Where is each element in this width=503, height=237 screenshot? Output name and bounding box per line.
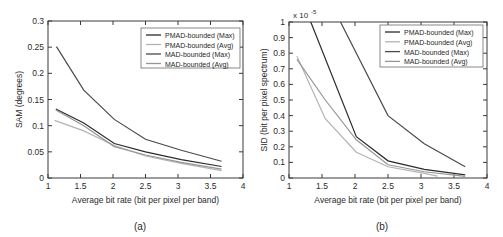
y-tick-label: 0.9	[273, 33, 285, 43]
caption-a: (a)	[134, 221, 146, 232]
y-tick-label: 0.2	[273, 142, 285, 152]
y-tick-label: 0.6	[273, 79, 285, 89]
y-axis-exponent: x 10	[293, 11, 309, 20]
x-tick-label: 1	[46, 181, 51, 191]
legend-label-1: PMAD-bounded (Avg)	[165, 42, 233, 50]
legend: PMAD-bounded (Max)PMAD-bounded (Avg)MAD-…	[380, 25, 483, 67]
legend-label-0: PMAD-bounded (Max)	[404, 29, 474, 37]
y-tick-label: 0.25	[27, 42, 44, 52]
series-line-mad-bounded-avg	[297, 59, 465, 176]
chart-a-svg: 11.522.533.5400.050.10.150.20.250.3Avera…	[0, 0, 251, 237]
y-tick-label: 0.15	[27, 95, 44, 105]
y-tick-label: 1	[280, 17, 285, 27]
x-tick-label: 2	[111, 181, 116, 191]
y-axis-label: SID (bit per pixel spectrum)	[259, 48, 269, 151]
legend: PMAD-bounded (Max)PMAD-bounded (Avg)MAD-…	[141, 28, 240, 69]
x-tick-label: 4	[485, 181, 490, 191]
legend-label-3: MAD-bounded (Avg)	[404, 58, 468, 66]
y-tick-label: 0.8	[273, 48, 285, 58]
series-line-pmad-bounded-avg	[55, 120, 222, 170]
chart-panel-b: 11.522.533.5400.10.20.30.40.50.60.70.80.…	[252, 0, 503, 237]
x-tick-label: 3.5	[448, 181, 460, 191]
y-tick-label: 0.3	[273, 126, 285, 136]
legend-label-1: PMAD-bounded (Avg)	[404, 39, 472, 47]
y-tick-label: 0.2	[32, 68, 44, 78]
x-axis-label: Average bit rate (bit per pixel per band…	[72, 195, 219, 205]
series-line-pmad-bounded-max	[56, 109, 222, 167]
x-tick-label: 1	[287, 181, 292, 191]
y-tick-label: 0.05	[27, 147, 44, 157]
x-tick-label: 4	[241, 181, 246, 191]
x-axis-label: Average bit rate (bit per pixel per band…	[314, 195, 461, 205]
x-tick-label: 3.5	[205, 181, 217, 191]
y-axis-label: SAM (degrees)	[14, 71, 24, 128]
legend-label-0: PMAD-bounded (Max)	[165, 32, 235, 40]
x-tick-label: 3	[176, 181, 181, 191]
x-tick-label: 1.5	[316, 181, 328, 191]
chart-b-svg: 11.522.533.5400.10.20.30.40.50.60.70.80.…	[252, 0, 503, 237]
legend-label-2: MAD-bounded (Max)	[404, 49, 469, 57]
legend-label-3: MAD-bounded (Avg)	[165, 61, 229, 69]
x-tick-label: 1.5	[75, 181, 87, 191]
series-line-mad-bounded-avg	[56, 110, 222, 169]
x-tick-label: 2.5	[382, 181, 394, 191]
y-tick-label: 0.7	[273, 64, 285, 74]
x-tick-label: 2	[353, 181, 358, 191]
caption-b: (b)	[376, 221, 388, 232]
y-tick-label: 0	[280, 173, 285, 183]
x-tick-label: 3	[419, 181, 424, 191]
y-tick-label: 0	[39, 173, 44, 183]
figure-container: 11.522.533.5400.050.10.150.20.250.3Avera…	[0, 0, 503, 237]
y-tick-label: 0.5	[273, 95, 285, 105]
y-axis-exponent-power: -5	[311, 9, 317, 15]
x-tick-label: 2.5	[140, 181, 152, 191]
legend-label-2: MAD-bounded (Max)	[165, 51, 230, 59]
y-tick-label: 0.1	[32, 121, 44, 131]
y-tick-label: 0.3	[32, 16, 44, 26]
y-tick-label: 0.1	[273, 157, 285, 167]
y-tick-label: 0.4	[273, 111, 285, 121]
chart-panel-a: 11.522.533.5400.050.10.150.20.250.3Avera…	[0, 0, 251, 237]
